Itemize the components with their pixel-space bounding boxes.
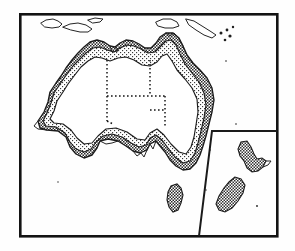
new-zealand-inset [199,131,277,236]
map-figure: Australia and New Zealand zone map Black… [0,0,295,251]
new-zealand-south [216,177,245,212]
map-canvas [0,0,295,251]
new-zealand-north [238,141,271,172]
tasmania [167,184,183,212]
timor-islands [41,18,103,32]
